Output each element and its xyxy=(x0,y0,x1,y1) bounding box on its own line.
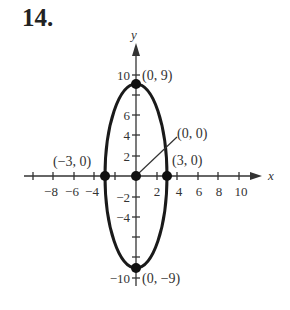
x-tick-label: −8 xyxy=(44,184,58,199)
point-top xyxy=(131,79,141,89)
y-tick-label: 2 xyxy=(124,149,131,164)
ellipse-graph: y x −8 −6 −4 2 4 6 8 10 10 6 4 2 −2 −4 −… xyxy=(0,0,290,310)
x-tick-label: 6 xyxy=(196,184,203,199)
y-axis-label: y xyxy=(129,27,137,42)
x-axis-arrow-icon xyxy=(250,172,262,180)
point-label-top: (0, 9) xyxy=(142,68,173,84)
y-tick-label: −10 xyxy=(110,271,130,286)
x-axis-label: x xyxy=(267,168,274,183)
y-tick-label: −4 xyxy=(116,210,130,225)
x-tick-label: 10 xyxy=(235,184,248,199)
x-tick-label: 4 xyxy=(176,184,183,199)
point-label-left: (−3, 0) xyxy=(53,154,92,170)
y-axis-arrow-icon xyxy=(132,43,140,56)
point-labels: (0, 9) (0, −9) (−3, 0) (3, 0) (0, 0) xyxy=(53,68,208,287)
y-tick-label: 6 xyxy=(124,108,131,123)
point-right xyxy=(162,171,172,181)
y-tick-label: 4 xyxy=(124,128,131,143)
x-axis xyxy=(24,172,262,180)
x-tick-label: −6 xyxy=(65,184,79,199)
y-tick-label: 10 xyxy=(117,68,130,83)
point-label-center: (0, 0) xyxy=(177,126,208,142)
x-tick-label: 8 xyxy=(216,184,223,199)
point-center xyxy=(131,171,141,181)
point-label-right: (3, 0) xyxy=(172,153,203,169)
x-tick-label: 2 xyxy=(154,184,161,199)
y-tick-label: −2 xyxy=(116,190,130,205)
point-bottom xyxy=(131,263,141,273)
x-tick-labels: −8 −6 −4 2 4 6 8 10 xyxy=(44,184,247,199)
x-tick-label: −4 xyxy=(85,184,99,199)
point-label-bottom: (0, −9) xyxy=(142,271,181,287)
point-left xyxy=(100,171,110,181)
